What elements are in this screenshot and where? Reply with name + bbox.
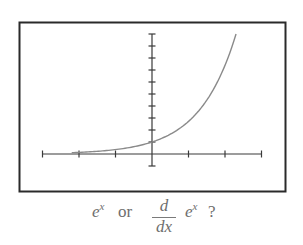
caption-ex: ex	[92, 202, 104, 222]
caption: ex or d dx ex ?	[0, 196, 303, 241]
exponential-plot	[0, 0, 303, 196]
caption-ex-2: ex	[185, 202, 197, 222]
fraction-numerator: d	[152, 196, 176, 216]
fraction-denominator: dx	[152, 218, 176, 236]
axes	[43, 34, 262, 166]
exp-curve	[72, 34, 236, 153]
caption-derivative-fraction: d dx	[152, 196, 176, 236]
caption-question-mark: ?	[208, 202, 216, 222]
caption-or: or	[118, 202, 132, 222]
